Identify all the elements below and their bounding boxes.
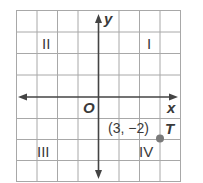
quadrant-IV-label: IV [139, 144, 153, 159]
x-axis-label: x [167, 100, 175, 115]
quadrant-II-label: II [42, 36, 50, 51]
coordinate-plane [0, 0, 203, 183]
origin-label: O [83, 100, 95, 115]
arrow-up-icon [95, 14, 102, 23]
quadrant-I-label: I [147, 36, 151, 51]
arrow-down-icon [95, 170, 102, 179]
point-T-coordinates: (3, −2) [108, 121, 149, 135]
y-axis-label: y [104, 11, 112, 26]
quadrant-III-label: III [37, 144, 50, 159]
arrow-left-icon [18, 94, 27, 101]
point-T-marker [156, 135, 164, 143]
point-T-label: T [165, 121, 174, 136]
